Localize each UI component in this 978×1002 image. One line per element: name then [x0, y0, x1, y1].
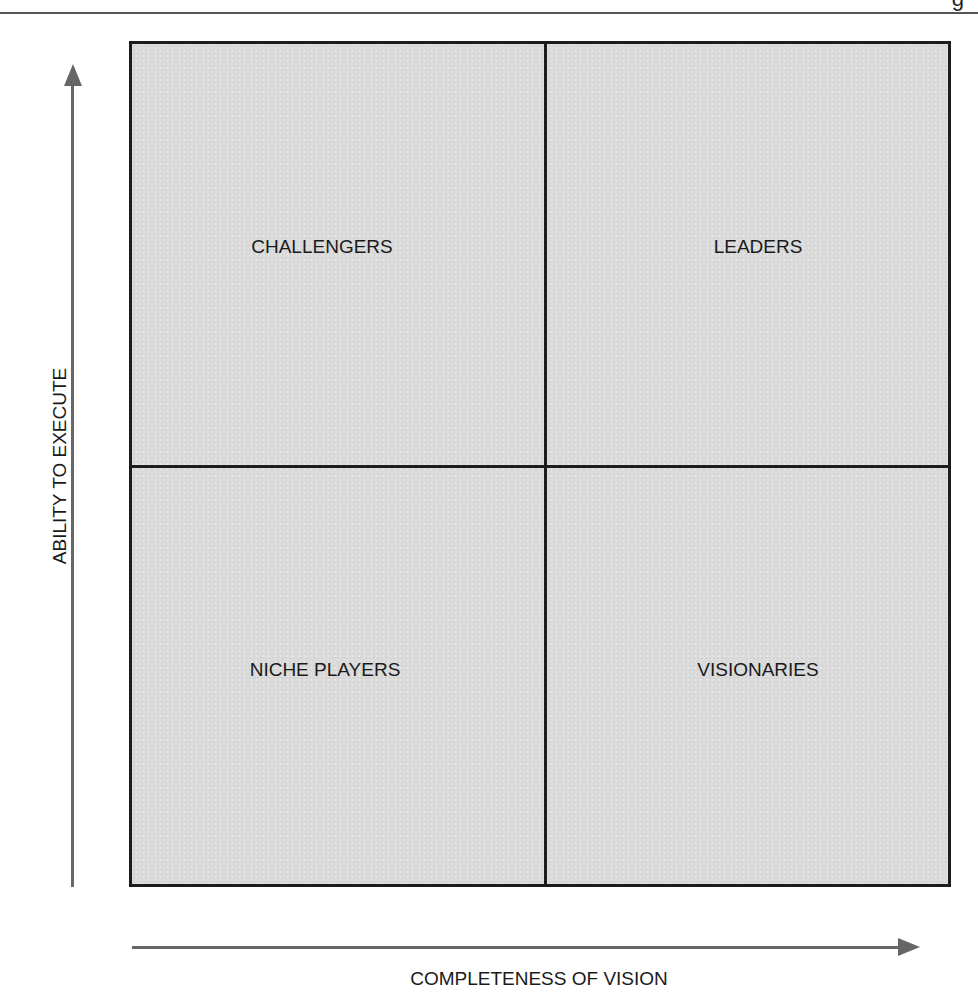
y-axis-label: ABILITY TO EXECUTE: [49, 368, 71, 564]
arrow-right-icon: [898, 938, 920, 956]
quadrant-visionaries-label: VISIONARIES: [697, 659, 818, 681]
header-rule: [0, 12, 978, 14]
quadrant-matrix: CHALLENGERS LEADERS NICHE PLAYERS VISION…: [129, 41, 951, 887]
quadrant-challengers-label: CHALLENGERS: [251, 236, 393, 258]
quadrant-niche-players-label: NICHE PLAYERS: [250, 659, 401, 681]
vertical-divider: [544, 44, 547, 884]
header-text-fragment: g: [952, 0, 964, 12]
y-axis-arrow-shaft: [71, 80, 74, 887]
x-axis-arrow-shaft: [132, 946, 904, 949]
arrow-up-icon: [64, 64, 82, 86]
horizontal-divider: [132, 465, 948, 468]
quadrant-leaders-label: LEADERS: [714, 236, 803, 258]
x-axis-label: COMPLETENESS OF VISION: [410, 968, 668, 990]
